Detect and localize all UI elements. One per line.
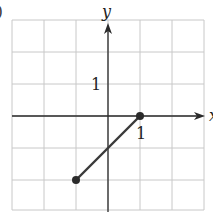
- closed-endpoint-dot: [136, 112, 144, 120]
- y-tick-label-1: 1: [91, 75, 101, 94]
- closed-endpoint-dot: [72, 176, 80, 184]
- x-axis-label: x: [209, 106, 213, 125]
- coordinate-plane: y x 1 1: [0, 0, 213, 212]
- y-axis-label: y: [101, 2, 112, 21]
- axes: [12, 23, 205, 212]
- x-tick-label-1: 1: [136, 124, 146, 143]
